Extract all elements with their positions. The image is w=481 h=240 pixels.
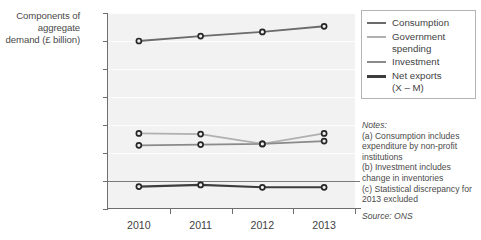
data-point: [198, 142, 203, 147]
data-point: [198, 182, 203, 187]
x-tick: [170, 209, 171, 214]
legend-label: Net exports (X – M): [392, 70, 442, 93]
note-b: (b) Investment includes change in invent…: [362, 162, 480, 183]
data-point: [322, 131, 327, 136]
data-point: [322, 185, 327, 190]
x-tick-label: 2012: [235, 219, 289, 231]
x-tick-label: 2011: [174, 219, 228, 231]
series-line: [139, 185, 324, 187]
notes-heading: Notes:: [362, 120, 480, 131]
legend-label: Investment: [392, 56, 439, 68]
x-tick-label: 2010: [112, 219, 166, 231]
legend-line-swatch-icon: [366, 31, 387, 43]
series-layer: [108, 13, 355, 209]
series-line: [139, 26, 324, 41]
series-consumption: [136, 24, 326, 44]
data-point: [136, 131, 141, 136]
legend-item-3[interactable]: Net exports (X – M): [366, 70, 471, 93]
legend-line-swatch-icon: [366, 70, 387, 82]
data-point: [136, 184, 141, 189]
data-point: [136, 39, 141, 44]
x-tick: [293, 209, 294, 214]
x-tick: [232, 209, 233, 214]
data-point: [322, 24, 327, 29]
legend-item-0[interactable]: Consumption: [366, 17, 471, 29]
data-point: [260, 185, 265, 190]
legend-label: Consumption: [392, 17, 449, 29]
series-line: [139, 141, 324, 145]
plot-area: 120010008006004002000-200 20102011201220…: [108, 13, 355, 209]
data-point: [198, 132, 203, 137]
y-axis-title: Components of aggregate demand (£ billio…: [2, 10, 80, 47]
legend-line-swatch-icon: [366, 56, 387, 68]
legend-label: Government spending: [392, 31, 445, 54]
x-tick-label: 2013: [297, 219, 351, 231]
data-point: [322, 139, 327, 144]
x-tick: [355, 209, 356, 214]
series-investment: [136, 139, 326, 148]
data-point: [198, 34, 203, 39]
notes-block: Notes: (a) Consumption includes expendit…: [362, 120, 480, 221]
figure: Components of aggregate demand (£ billio…: [0, 0, 481, 240]
note-c: (c) Statistical discrepancy for 2013 exc…: [362, 184, 480, 205]
legend-line-swatch-icon: [366, 17, 387, 29]
source-line: Source: ONS: [362, 211, 480, 222]
series-net-exports-x-m: [136, 182, 326, 189]
data-point: [260, 29, 265, 34]
legend-item-1[interactable]: Government spending: [366, 31, 471, 54]
note-a: (a) Consumption includes expenditure by …: [362, 131, 480, 163]
data-point: [260, 141, 265, 146]
y-tick: [103, 209, 108, 210]
legend-item-2[interactable]: Investment: [366, 56, 471, 68]
data-point: [136, 143, 141, 148]
legend: ConsumptionGovernment spendingInvestment…: [361, 10, 476, 99]
